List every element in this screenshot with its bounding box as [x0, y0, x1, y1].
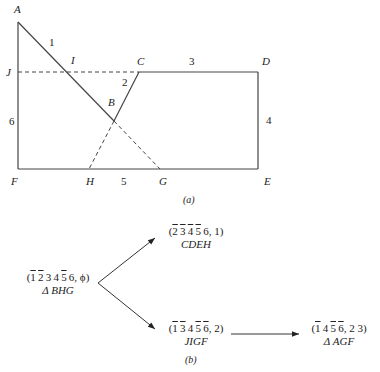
node-region-label: Δ AGF	[303, 335, 375, 348]
caption-b: (b)	[185, 355, 197, 365]
point-label-B: B	[108, 97, 115, 108]
tuple-digit: 5	[330, 322, 336, 334]
edge-number-1: 1	[49, 37, 55, 48]
tuple-digit: 5	[195, 225, 201, 237]
tuple-digit: 5	[195, 322, 201, 334]
edge-number-6: 6	[9, 116, 15, 127]
edge-number-2: 2	[122, 77, 128, 88]
node-region-label: CDEH	[160, 238, 232, 251]
tuple-digit: 1	[30, 271, 36, 283]
tuple-digit: 2	[172, 225, 178, 237]
arrow-root-lower	[98, 283, 155, 329]
tuple-digit: 3	[180, 322, 186, 334]
node-tuple: (1 4 5 6, 2 3)	[303, 322, 375, 335]
tuple-digit: 4	[188, 322, 194, 334]
node-region-label: Δ BHG	[18, 284, 98, 297]
point-label-G: G	[159, 176, 167, 187]
tuple-digit: 4	[188, 225, 194, 237]
point-label-A: A	[14, 4, 21, 15]
tuple-digit: 4	[323, 322, 329, 334]
tuple-digit: 4	[53, 271, 59, 283]
edge-number-4: 4	[266, 115, 272, 126]
point-label-E: E	[264, 176, 271, 187]
tree-node-upper: (2 3 4 5 6, 1) CDEH	[160, 225, 232, 251]
point-label-H: H	[86, 176, 94, 187]
tuple-digit: 2	[38, 271, 44, 283]
node-tuple: (2 3 4 5 6, 1)	[160, 225, 232, 238]
point-label-I: I	[71, 55, 75, 66]
edge-number-5: 5	[121, 176, 127, 187]
dashed-BG	[114, 121, 160, 169]
tuple-digit: 5	[61, 271, 67, 283]
tuple-digit: 1	[172, 322, 178, 334]
point-label-D: D	[262, 56, 270, 67]
tree-node-lower: (1 3 4 5 6, 2) JIGF	[160, 322, 232, 348]
dashed-BH	[89, 121, 114, 169]
tuple-digit: 1	[315, 322, 321, 334]
edge-number-3: 3	[189, 56, 195, 67]
point-label-F: F	[11, 176, 18, 187]
node-region-label: JIGF	[160, 335, 232, 348]
tree-node-root: (1 2 3 4 5 6, ϕ) Δ BHG	[18, 271, 98, 297]
point-label-C: C	[137, 56, 144, 67]
point-label-J: J	[6, 67, 11, 78]
node-tuple: (1 3 4 5 6, 2)	[160, 322, 232, 335]
arrow-root-upper	[98, 238, 155, 283]
tuple-digit: 3	[180, 225, 186, 237]
tree-node-right: (1 4 5 6, 2 3) Δ AGF	[303, 322, 375, 348]
node-tuple: (1 2 3 4 5 6, ϕ)	[18, 271, 98, 284]
caption-a: (a)	[183, 195, 195, 205]
tuple-digit: 3	[46, 271, 52, 283]
